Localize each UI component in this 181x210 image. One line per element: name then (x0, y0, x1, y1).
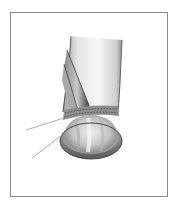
leader-line-lower (32, 135, 62, 158)
medical-illustration (0, 0, 181, 210)
ring-cuff (60, 115, 122, 159)
leader-line-upper (26, 118, 64, 130)
